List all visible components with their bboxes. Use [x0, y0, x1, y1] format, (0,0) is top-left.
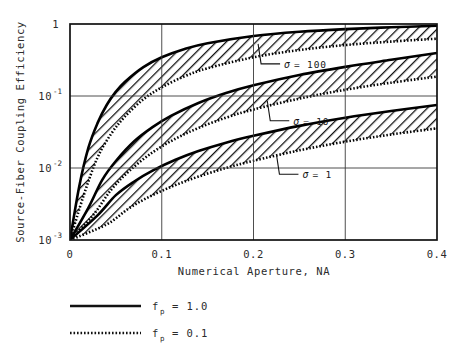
legend-subscript-0: p: [160, 307, 165, 316]
legend-subscript-1: p: [160, 334, 165, 343]
annotation-label-sigma-100: = 100: [294, 59, 327, 70]
y-tick-label-3: 10: [38, 234, 52, 246]
annotation-symbol-sigma-100: σ: [284, 59, 290, 70]
legend: f p = 1.0 f p = 0.1: [70, 300, 208, 343]
x-axis-ticks: 00.10.20.30.4: [67, 248, 448, 260]
annotation-symbol-sigma-10: σ: [293, 116, 299, 127]
y-tick-label-1: 10: [38, 90, 52, 102]
x-tick-label-2: 0.2: [243, 248, 263, 260]
x-tick-label-1: 0.1: [152, 248, 172, 260]
y-tick-exp-1: -1: [53, 87, 62, 96]
figure-container: σ= 100σ= 10σ= 1 1 10 -1 10 -2 10 -3 00.1…: [0, 0, 461, 353]
y-axis-ticks: 1 10 -1 10 -2 10 -3: [38, 18, 62, 246]
x-tick-label-4: 0.4: [427, 248, 447, 260]
legend-symbol-0: f: [152, 300, 159, 312]
y-tick-exp-2: -2: [53, 159, 62, 168]
y-tick-label-2: 10: [38, 162, 52, 174]
x-tick-label-3: 0.3: [335, 248, 355, 260]
y-tick-exp-3: -3: [53, 231, 62, 240]
x-axis-title: Numerical Aperture, NA: [178, 265, 330, 277]
annotation-label-sigma-1: = 1: [312, 169, 332, 180]
annotation-symbol-sigma-1: σ: [302, 169, 308, 180]
legend-symbol-1: f: [152, 327, 159, 339]
legend-value-1: = 0.1: [172, 327, 208, 339]
annotation-label-sigma-10: = 10: [303, 116, 329, 127]
coupling-efficiency-chart: σ= 100σ= 10σ= 1 1 10 -1 10 -2 10 -3 00.1…: [0, 0, 461, 353]
y-tick-label-0: 1: [52, 18, 59, 30]
y-axis-title: Source-Fiber Coupling Efficiency: [14, 21, 26, 243]
legend-value-0: = 1.0: [172, 300, 208, 312]
x-tick-label-0: 0: [67, 248, 74, 260]
